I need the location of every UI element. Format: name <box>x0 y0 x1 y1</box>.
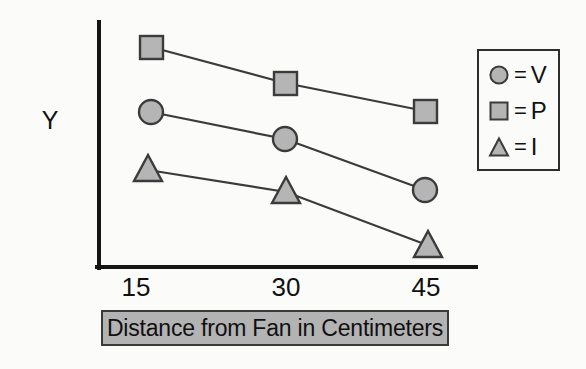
legend-item-i: = I <box>479 129 558 165</box>
legend-label-p: P <box>531 97 547 125</box>
series-markers <box>134 36 442 257</box>
legend-label-v: V <box>531 61 547 89</box>
data-point-V-30 <box>273 127 297 151</box>
y-axis-label: Y <box>30 106 70 135</box>
data-point-P-15 <box>140 36 163 59</box>
legend-equals-p: = <box>514 98 527 124</box>
legend: = V = P = I <box>477 49 560 171</box>
data-point-V-45 <box>413 178 437 202</box>
circle-marker-icon <box>488 64 510 86</box>
square-marker-icon <box>488 100 510 122</box>
legend-equals-v: = <box>514 62 527 88</box>
x-axis-tick-45: 45 <box>396 272 456 303</box>
x-axis-tick-30: 30 <box>256 272 316 303</box>
legend-label-i: I <box>531 133 538 161</box>
x-axis-title-text: Distance from Fan in Centimeters <box>107 315 443 342</box>
triangle-marker-icon <box>488 136 510 158</box>
data-point-I-45 <box>414 231 442 257</box>
data-point-V-15 <box>139 100 163 124</box>
x-axis-title-box: Distance from Fan in Centimeters <box>101 310 449 346</box>
x-axis-tick-15: 15 <box>106 272 166 303</box>
chart-figure: Y 15 30 45 Distance from Fan in Centimet… <box>0 0 586 369</box>
legend-equals-i: = <box>514 134 527 160</box>
legend-item-p: = P <box>479 93 558 129</box>
data-point-I-15 <box>134 155 162 181</box>
data-point-P-45 <box>414 100 437 123</box>
legend-item-v: = V <box>479 57 558 93</box>
data-point-P-30 <box>274 72 297 95</box>
